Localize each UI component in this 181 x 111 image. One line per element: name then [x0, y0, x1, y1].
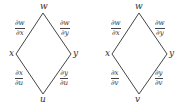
- edge-label-top-left: ∂w∂x: [111, 20, 121, 37]
- edge-label-bottom-left: ∂x∂v: [111, 70, 119, 87]
- node-bottom: v: [135, 95, 140, 104]
- edge-label-bottom-left: ∂x∂u: [15, 70, 23, 87]
- node-right: y: [169, 49, 174, 58]
- node-left: x: [9, 49, 14, 58]
- node-top: w: [40, 2, 48, 11]
- node-top: w: [135, 2, 143, 11]
- edge-label-bottom-right: ∂y∂u: [60, 70, 68, 87]
- tree-diagram-v: w x y v ∂w∂x ∂w∂y ∂x∂v ∂y∂v: [90, 0, 180, 111]
- edge-label-top-left: ∂w∂x: [15, 20, 25, 37]
- tree-diagram-u: w x y u ∂w∂x ∂w∂y ∂x∂u ∂y∂u: [0, 0, 90, 111]
- node-bottom: u: [40, 95, 46, 104]
- node-left: x: [105, 49, 110, 58]
- edge-label-top-right: ∂w∂y: [60, 20, 70, 37]
- edge-label-top-right: ∂w∂y: [155, 20, 165, 37]
- node-right: y: [73, 49, 78, 58]
- edge-label-bottom-right: ∂y∂v: [155, 70, 163, 87]
